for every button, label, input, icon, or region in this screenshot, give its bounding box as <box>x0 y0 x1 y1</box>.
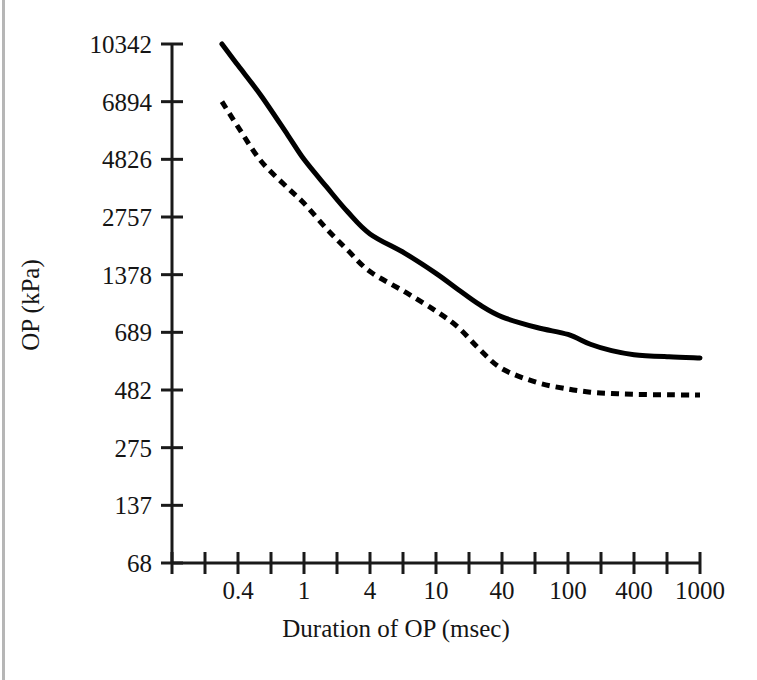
y-axis-tick-label: 68 <box>127 550 152 577</box>
y-axis-tick-label: 2757 <box>102 204 152 231</box>
y-axis-tick-label: 1378 <box>102 262 152 289</box>
series-line-upper-curve <box>222 44 700 358</box>
data-series-group <box>222 44 700 395</box>
x-axis-tick-label: 40 <box>490 577 515 604</box>
y-axis-tick-label: 689 <box>115 319 153 346</box>
x-axis-tick-label: 0.4 <box>222 577 254 604</box>
x-axis-tick-label: 4 <box>364 577 377 604</box>
x-axis-tick-label: 100 <box>549 577 587 604</box>
x-axis-title: Duration of OP (msec) <box>282 615 510 643</box>
y-axis-tick-label: 4826 <box>102 146 152 173</box>
y-axis-label-group: 68137275482689137827574826689410342 <box>90 31 153 577</box>
x-axis-tick-label: 10 <box>424 577 449 604</box>
y-axis-tick-label: 275 <box>115 435 153 462</box>
y-axis-title: OP (kPa) <box>17 259 45 350</box>
x-axis-tick-label: 1 <box>298 577 311 604</box>
figure-root: 68137275482689137827574826689410342 0.41… <box>0 0 757 680</box>
y-axis-tick-label: 10342 <box>90 31 153 58</box>
axis-lines <box>172 44 700 563</box>
x-axis-label-group: 0.41410401004001000 <box>222 577 725 604</box>
y-axis-tick-label: 482 <box>115 377 153 404</box>
y-axis-tick-label: 137 <box>115 492 153 519</box>
y-axis-tick-label: 6894 <box>102 89 153 116</box>
x-axis-tick-label: 1000 <box>675 577 725 604</box>
x-axis-tick-label: 400 <box>615 577 653 604</box>
op-duration-line-chart: 68137275482689137827574826689410342 0.41… <box>0 0 757 680</box>
